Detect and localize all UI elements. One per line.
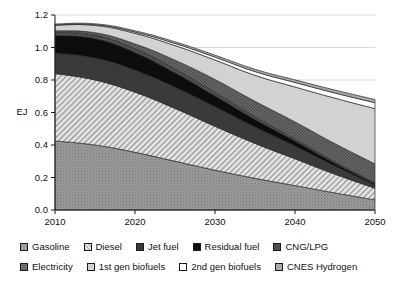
legend-row-1: GasolineDieselJet fuelResidual fuelCNG/L…: [20, 238, 402, 256]
legend-item-1st-gen-biofuels[interactable]: 1st gen biofuels: [87, 262, 166, 272]
legend-item-electricity[interactable]: Electricity: [20, 262, 73, 272]
legend-label: Residual fuel: [205, 242, 260, 252]
chart-legend: GasolineDieselJet fuelResidual fuelCNG/L…: [0, 234, 412, 288]
y-tick-label: 0.8: [35, 74, 48, 85]
legend-item-diesel[interactable]: Diesel: [84, 242, 122, 252]
legend-row-2: Electricity1st gen biofuels2nd gen biofu…: [20, 258, 402, 276]
diesel-swatch: [84, 243, 92, 251]
legend-label: Jet fuel: [148, 242, 179, 252]
y-tick-label: 0.2: [35, 172, 48, 183]
residual-fuel-swatch: [193, 243, 201, 251]
legend-label: 1st gen biofuels: [99, 262, 166, 272]
y-tick-label: 0.6: [35, 107, 48, 118]
legend-item-cnes-hydrogen[interactable]: CNES Hydrogen: [275, 262, 357, 272]
y-tick-label: 1.2: [35, 9, 48, 20]
legend-item-2nd-gen-biofuels[interactable]: 2nd gen biofuels: [179, 262, 261, 272]
legend-label: Diesel: [96, 242, 122, 252]
legend-item-residual-fuel[interactable]: Residual fuel: [193, 242, 260, 252]
y-tick-label: 0.4: [35, 139, 48, 150]
x-tick-label: 2020: [124, 216, 145, 227]
chart-svg: 0.00.20.40.60.81.01.2 201020202030204020…: [0, 0, 412, 232]
stacked-area-chart-figure: 0.00.20.40.60.81.01.2 201020202030204020…: [0, 0, 412, 288]
jet-fuel-swatch: [136, 243, 144, 251]
y-tick-label: 1.0: [35, 42, 48, 53]
legend-item-cng-lpg[interactable]: CNG/LPG: [273, 242, 328, 252]
legend-label: 2nd gen biofuels: [191, 262, 261, 272]
first-gen-biofuels-swatch: [87, 263, 95, 271]
gasoline-swatch: [20, 243, 28, 251]
x-tick-label: 2030: [204, 216, 225, 227]
x-axis-ticks: 20102020203020402050: [44, 210, 385, 227]
legend-item-gasoline[interactable]: Gasoline: [20, 242, 70, 252]
electricity-swatch: [20, 263, 28, 271]
y-tick-label: 0.0: [35, 204, 48, 215]
second-gen-biofuels-swatch: [179, 263, 187, 271]
plot-area-wrapper: 0.00.20.40.60.81.01.2 201020202030204020…: [0, 0, 412, 232]
x-tick-label: 2040: [284, 216, 305, 227]
y-axis-label: EJ: [16, 106, 27, 117]
legend-item-jet-fuel[interactable]: Jet fuel: [136, 242, 179, 252]
x-tick-label: 2050: [364, 216, 385, 227]
legend-label: Electricity: [32, 262, 73, 272]
cng-lpg-swatch: [273, 243, 281, 251]
legend-label: CNG/LPG: [285, 242, 328, 252]
legend-label: CNES Hydrogen: [287, 262, 357, 272]
x-tick-label: 2010: [44, 216, 65, 227]
legend-label: Gasoline: [32, 242, 70, 252]
cnes-hydrogen-swatch: [275, 263, 283, 271]
y-axis-ticks: 0.00.20.40.60.81.01.2: [35, 9, 55, 215]
